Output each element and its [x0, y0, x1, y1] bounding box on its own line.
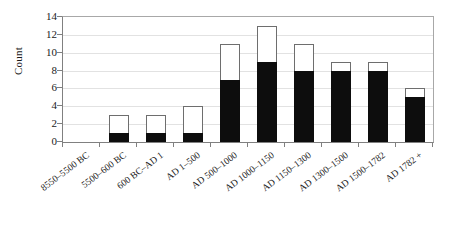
x-tick-mark [432, 142, 433, 147]
y-tick-label: 14 [21, 10, 57, 22]
x-tick-mark [62, 142, 63, 147]
y-tick-label: 10 [21, 46, 57, 58]
bar-filled-segment [257, 62, 277, 142]
bar-chart: Count 02468101214 8550–5500 BC5500–600 B… [0, 0, 465, 227]
bar [109, 17, 129, 142]
y-tick-label: 4 [21, 99, 57, 111]
bar [257, 17, 277, 142]
x-tick-mark [99, 142, 100, 147]
y-tick-label: 2 [21, 117, 57, 129]
plot-area [62, 16, 434, 143]
bar-filled-segment [368, 71, 388, 142]
x-tick-mark [136, 142, 137, 147]
y-tick-label: 8 [21, 64, 57, 76]
bar-filled-segment [220, 80, 240, 143]
bar [368, 17, 388, 142]
bar-filled-segment [183, 133, 203, 142]
x-tick-mark [395, 142, 396, 147]
y-tick-label: 6 [21, 81, 57, 93]
bar-filled-segment [331, 71, 351, 142]
bar [220, 17, 240, 142]
bar [405, 17, 425, 142]
bar [331, 17, 351, 142]
x-tick-mark [210, 142, 211, 147]
bar-filled-segment [146, 133, 166, 142]
x-tick-mark [284, 142, 285, 147]
y-tick-label: 12 [21, 28, 57, 40]
bar-filled-segment [405, 97, 425, 142]
x-tick-mark [358, 142, 359, 147]
bar [146, 17, 166, 142]
x-tick-mark [321, 142, 322, 147]
bar-filled-segment [294, 71, 314, 142]
y-tick-label: 0 [21, 135, 57, 147]
x-tick-mark [173, 142, 174, 147]
bar [183, 17, 203, 142]
x-tick-label: AD 1782 + [383, 150, 423, 184]
bar [294, 17, 314, 142]
bar-filled-segment [109, 133, 129, 142]
x-tick-mark [247, 142, 248, 147]
